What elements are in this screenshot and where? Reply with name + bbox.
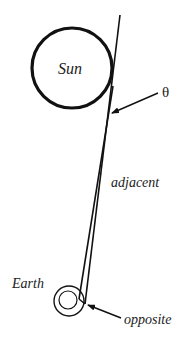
theta-arrow [112, 93, 158, 113]
opposite-arrow [88, 305, 121, 318]
earth-inner-circle [59, 291, 77, 309]
sight-line-tangent [79, 86, 113, 299]
theta-label: θ [162, 84, 169, 100]
sun-earth-parallax-diagram: Sun θ adjacent Earth opposite [0, 0, 185, 349]
sight-line-outer [85, 15, 120, 304]
opposite-label: opposite [124, 312, 171, 327]
earth-label: Earth [11, 276, 44, 291]
adjacent-label: adjacent [111, 175, 160, 190]
sun-label: Sun [58, 60, 82, 77]
